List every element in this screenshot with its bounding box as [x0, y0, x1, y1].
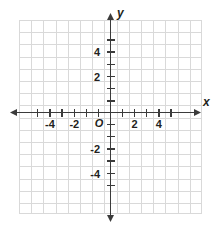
x-axis-left-arrow-icon [10, 109, 17, 116]
coordinate-plane-figure: -4 -2 2 4 4 2 -2 -4 O y x [0, 0, 218, 226]
x-tick-label-neg2: -2 [69, 118, 79, 130]
y-tick-label-pos2: 2 [94, 71, 100, 83]
x-tick-label-pos2: 2 [131, 118, 137, 130]
y-axis-top-arrow-icon [107, 13, 114, 20]
origin-label: O [95, 117, 104, 129]
x-tick-label-neg4: -4 [45, 118, 56, 130]
coordinate-plane-canvas: -4 -2 2 4 4 2 -2 -4 O y x [0, 0, 218, 226]
x-tick-label-pos4: 4 [156, 118, 163, 130]
y-axis-label: y [116, 6, 125, 20]
y-axis-bottom-arrow-icon [107, 215, 114, 222]
y-tick-label-neg2: -2 [90, 143, 100, 155]
y-tick-label-pos4: 4 [94, 46, 101, 58]
x-axis-label: x [202, 95, 211, 109]
y-tick-label-neg4: -4 [90, 168, 101, 180]
